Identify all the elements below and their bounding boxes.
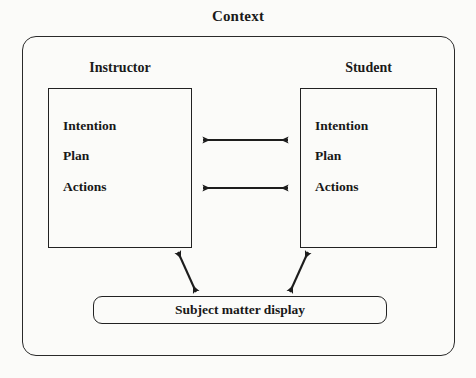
actor-heading-instructor: Instructor [48, 60, 192, 76]
context-diagram: Context Instructor Intention Plan Action… [0, 0, 476, 378]
actor-box-instructor: Intention Plan Actions [48, 88, 192, 248]
actor-items-instructor: Intention Plan Actions [49, 89, 191, 247]
actor-item-student-actions: Actions [315, 179, 359, 195]
actor-item-student-plan: Plan [315, 148, 341, 164]
actor-item-instructor-intention: Intention [63, 118, 116, 134]
actor-heading-student: Student [300, 60, 437, 76]
actor-items-student: Intention Plan Actions [301, 89, 436, 247]
actor-box-student: Intention Plan Actions [300, 88, 437, 248]
actor-item-instructor-plan: Plan [63, 148, 89, 164]
actor-item-student-intention: Intention [315, 118, 368, 134]
subject-matter-display-label: Subject matter display [94, 297, 386, 323]
diagram-title: Context [0, 8, 476, 25]
actor-item-instructor-actions: Actions [63, 179, 107, 195]
subject-matter-display-box: Subject matter display [93, 296, 387, 324]
